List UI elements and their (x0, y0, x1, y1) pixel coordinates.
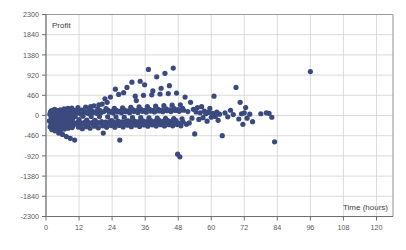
y-axis-tick-label: -460 (25, 131, 39, 140)
data-point (167, 83, 172, 88)
data-point (185, 109, 190, 114)
data-point (231, 112, 236, 117)
data-point (225, 114, 230, 119)
data-point (228, 108, 233, 113)
data-point (124, 85, 129, 90)
data-point (269, 115, 274, 120)
scatter-chart: -2300-1840-1380-920-46004609201380184023… (0, 0, 406, 250)
y-axis-tick-label: 920 (27, 71, 39, 80)
x-axis-tick-label: 96 (306, 223, 314, 232)
y-axis-tick-label: -2300 (21, 212, 39, 221)
y-axis-title: Profit (52, 21, 71, 30)
data-point (189, 116, 194, 121)
y-axis-tick-label: -1840 (21, 192, 39, 201)
data-point (134, 98, 139, 103)
data-point (141, 93, 146, 98)
data-point (159, 86, 164, 91)
data-point (166, 91, 171, 96)
data-point (199, 104, 204, 109)
x-axis-title: Time (hours) (343, 203, 388, 212)
x-axis-tick-label: 108 (337, 223, 349, 232)
data-point (157, 91, 162, 96)
data-point (72, 137, 77, 142)
data-point (100, 101, 105, 106)
x-axis-tick-label: 72 (240, 223, 248, 232)
data-point (101, 130, 106, 135)
data-point (117, 137, 122, 142)
data-point (113, 87, 118, 92)
x-axis-tick-label: 120 (370, 223, 382, 232)
data-point (142, 82, 147, 87)
data-point (146, 67, 151, 72)
data-point (247, 112, 252, 117)
data-point (105, 114, 110, 119)
data-point (272, 139, 277, 144)
data-point (250, 119, 255, 124)
y-axis-tick-label: -920 (25, 152, 39, 161)
data-point (205, 119, 210, 124)
x-axis-tick-label: 60 (207, 223, 215, 232)
data-point (150, 88, 155, 93)
y-axis-tick-label: 0 (35, 111, 39, 120)
data-point (238, 100, 243, 105)
data-point (192, 131, 197, 136)
data-point (243, 105, 248, 110)
data-point (220, 133, 225, 138)
data-point (182, 94, 187, 99)
data-point (171, 65, 176, 70)
y-axis-tick-label: 460 (27, 91, 39, 100)
plot-canvas: -2300-1840-1380-920-46004609201380184023… (0, 0, 406, 250)
data-point (162, 71, 167, 76)
data-point (240, 122, 245, 127)
x-axis-tick-label: 24 (108, 223, 116, 232)
data-point (133, 94, 138, 99)
data-point (187, 120, 192, 125)
x-axis-tick-label: 0 (44, 223, 48, 232)
data-point (105, 100, 110, 105)
data-point (177, 154, 182, 159)
data-point (121, 90, 126, 95)
data-point (308, 69, 313, 74)
data-point (207, 106, 212, 111)
data-points-group (47, 65, 313, 159)
data-point (217, 112, 222, 117)
data-point (233, 85, 238, 90)
x-axis-tick-label: 36 (141, 223, 149, 232)
data-point (129, 80, 134, 85)
x-axis-tick-label: 84 (273, 223, 281, 232)
data-point (174, 91, 179, 96)
data-point (236, 116, 241, 121)
data-point (242, 110, 247, 115)
data-point (188, 100, 193, 105)
x-axis-tick-label: 48 (174, 223, 182, 232)
y-axis-tick-label: -1380 (21, 172, 39, 181)
y-axis-tick-label: 1840 (23, 30, 39, 39)
y-axis-tick-label: 2300 (23, 10, 39, 19)
data-point (211, 94, 216, 99)
y-axis-tick-label: 1380 (23, 51, 39, 60)
x-axis-tick-label: 12 (75, 223, 83, 232)
data-point (154, 74, 159, 79)
data-point (108, 94, 113, 99)
data-point (138, 79, 143, 84)
data-point (216, 118, 221, 123)
data-point (116, 92, 121, 97)
data-point (258, 111, 263, 116)
